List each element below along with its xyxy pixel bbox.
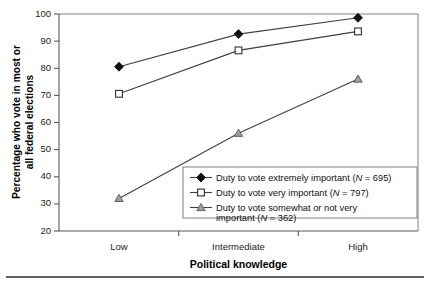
series-line-very-important bbox=[119, 31, 358, 93]
x-tick-label-high: High bbox=[348, 241, 368, 252]
line-chart: 100 90 80 70 60 50 40 30 20 Low Intermed… bbox=[0, 0, 430, 283]
y-tick-label-90: 90 bbox=[40, 35, 51, 46]
y-axis-ticks bbox=[54, 14, 59, 231]
y-axis-title-line1: Percentage who vote in most or bbox=[11, 45, 22, 199]
legend-label-somewhat-important-line2: important (N = 362) bbox=[216, 213, 296, 223]
y-axis-title-line2: all federal elections bbox=[24, 74, 35, 169]
x-axis-ticks bbox=[179, 231, 299, 236]
figure-container: 100 90 80 70 60 50 40 30 20 Low Intermed… bbox=[0, 0, 430, 283]
legend-label-extremely-important: Duty to vote extremely important (N = 69… bbox=[216, 173, 391, 183]
legend-label-somewhat-important-line1: Duty to vote somewhat or not very bbox=[216, 203, 357, 213]
series-line-extremely-important bbox=[119, 18, 358, 67]
chart-legend: Duty to vote extremely important (N = 69… bbox=[183, 167, 417, 223]
y-tick-label-100: 100 bbox=[35, 8, 51, 19]
y-tick-label-40: 40 bbox=[40, 170, 51, 181]
legend-label-very-important: Duty to vote very important (N = 797) bbox=[216, 188, 369, 198]
x-axis-title: Political knowledge bbox=[190, 258, 288, 270]
y-tick-label-60: 60 bbox=[40, 116, 51, 127]
y-tick-label-50: 50 bbox=[40, 143, 51, 154]
y-tick-label-80: 80 bbox=[40, 62, 51, 73]
y-tick-label-70: 70 bbox=[40, 89, 51, 100]
x-tick-label-low: Low bbox=[110, 241, 128, 252]
y-tick-label-20: 20 bbox=[40, 225, 51, 236]
y-tick-label-30: 30 bbox=[40, 197, 51, 208]
legend-marker-square-icon bbox=[198, 189, 205, 196]
y-axis-title: Percentage who vote in most or all feder… bbox=[11, 45, 35, 199]
x-tick-label-intermediate: Intermediate bbox=[212, 241, 265, 252]
